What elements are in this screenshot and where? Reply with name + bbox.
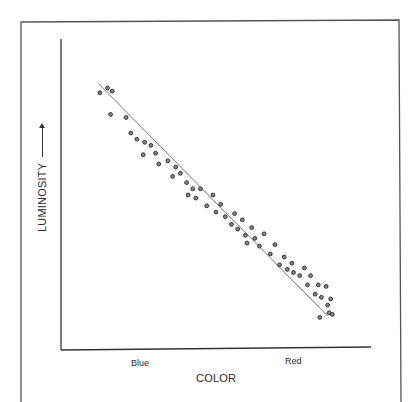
data-point	[316, 283, 320, 287]
data-point	[253, 237, 257, 241]
data-point	[290, 261, 294, 265]
data-point	[154, 151, 158, 155]
data-point	[214, 210, 218, 214]
x-axis	[61, 347, 371, 350]
data-point	[240, 218, 244, 222]
data-point	[233, 212, 237, 216]
data-point	[124, 116, 128, 120]
data-point	[329, 297, 333, 301]
data-point	[171, 175, 175, 179]
data-point	[149, 144, 153, 148]
data-point	[273, 243, 277, 247]
data-point	[230, 223, 234, 227]
data-point	[211, 193, 215, 197]
data-point	[285, 268, 289, 272]
data-point	[199, 187, 203, 191]
x-axis-title: COLOR	[196, 372, 236, 384]
data-point	[306, 283, 310, 287]
data-point	[205, 204, 209, 208]
data-point	[110, 89, 114, 93]
figure-border	[21, 20, 401, 402]
x-tick-label-red: Red	[285, 356, 302, 366]
data-point	[245, 241, 249, 245]
data-point	[278, 263, 282, 267]
data-point	[166, 159, 170, 163]
data-point	[223, 215, 227, 219]
data-point	[179, 171, 183, 175]
x-tick-label-blue: Blue	[131, 358, 149, 368]
data-point	[303, 266, 307, 270]
y-axis-title: LUMINOSITY	[36, 125, 48, 232]
data-point	[174, 165, 178, 169]
data-point	[141, 153, 145, 157]
data-point	[250, 226, 254, 230]
data-point	[292, 271, 296, 275]
data-point	[282, 255, 286, 259]
data-point	[320, 295, 324, 299]
data-point	[262, 232, 266, 236]
data-point	[135, 137, 139, 141]
data-point	[191, 187, 195, 191]
data-point	[324, 285, 328, 289]
chart-canvas	[0, 0, 414, 402]
data-point	[313, 292, 317, 296]
data-point	[326, 303, 330, 307]
up-arrow-icon	[42, 125, 43, 157]
data-point	[318, 316, 322, 320]
data-point	[109, 113, 113, 117]
y-axis-title-text: LUMINOSITY	[36, 163, 48, 232]
data-point	[98, 91, 102, 95]
data-point	[194, 196, 198, 200]
data-point	[330, 313, 334, 317]
data-point	[268, 252, 272, 256]
data-point	[244, 233, 248, 237]
data-point	[236, 227, 240, 231]
data-point	[143, 140, 147, 144]
data-point	[186, 193, 190, 197]
data-point	[258, 244, 262, 248]
data-point	[219, 202, 223, 206]
data-point	[157, 162, 161, 166]
data-point	[106, 86, 110, 90]
data-point	[298, 274, 302, 278]
trend-line	[98, 83, 327, 316]
data-point	[309, 274, 313, 278]
data-point	[129, 131, 133, 135]
data-point	[185, 181, 189, 185]
